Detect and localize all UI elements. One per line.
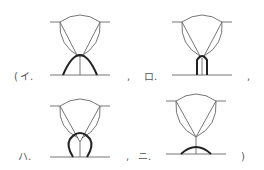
option-c-diagram (50, 99, 110, 157)
weld-cap-arc (176, 94, 216, 101)
groove-right (196, 101, 216, 137)
groove-left (182, 22, 200, 56)
open-paren: ( (14, 71, 18, 82)
weld-cap-arc (60, 15, 100, 22)
weld-cap-arc (182, 15, 222, 22)
option-d-diagram (166, 94, 226, 154)
option-b-diagram (172, 15, 232, 75)
groove-left (176, 101, 196, 137)
weld-cap-arc (60, 99, 100, 106)
option-d-label: ニ. (138, 151, 151, 162)
option-c-label: ハ. (18, 151, 31, 162)
separator-2: , (247, 71, 250, 82)
close-paren: ) (241, 151, 245, 162)
option-b-label: ロ. (144, 71, 157, 82)
groove-right (204, 22, 222, 56)
option-a-label: イ. (20, 71, 33, 82)
separator-3: , (126, 151, 129, 162)
option-a-diagram (50, 15, 110, 75)
separator-1: , (127, 71, 130, 82)
weld-penetration-diagram: ( イ. , ロ. , ハ. , ニ. ) (0, 0, 264, 170)
